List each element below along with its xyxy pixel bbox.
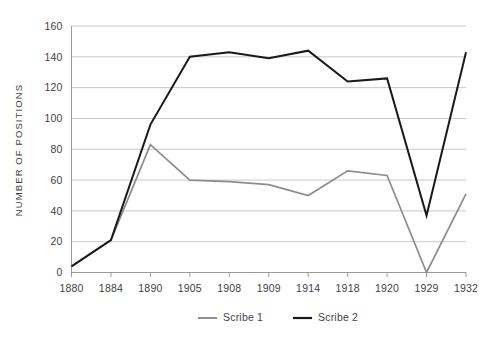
x-tick-label: 1884 <box>99 282 123 294</box>
x-tick-label: 1908 <box>217 282 241 294</box>
y-axis-title: NUMBER OF POSITIONS <box>13 84 24 216</box>
x-tick-label: 1905 <box>178 282 202 294</box>
y-tick-label: 40 <box>50 205 62 217</box>
x-tick-label: 1890 <box>138 282 162 294</box>
y-tick-label: 120 <box>44 81 62 93</box>
x-tick-label: 1914 <box>296 282 320 294</box>
series-line-2 <box>72 51 467 267</box>
x-tick-labels: 1880188418901905190819091914191819201929… <box>59 282 478 294</box>
series-lines <box>72 51 467 273</box>
x-tick-marks <box>72 273 467 278</box>
y-tick-label: 60 <box>50 174 62 186</box>
x-tick-label: 1918 <box>336 282 360 294</box>
line-chart: 020406080100120140160 188018841890190519… <box>0 0 483 346</box>
x-tick-label: 1932 <box>454 282 478 294</box>
y-tick-label: 140 <box>44 51 62 63</box>
series-line-1 <box>72 145 467 273</box>
legend-label-2: Scribe 2 <box>318 311 358 323</box>
y-tick-label: 80 <box>50 143 62 155</box>
chart-canvas: 020406080100120140160 188018841890190519… <box>0 0 483 346</box>
x-tick-label: 1920 <box>375 282 399 294</box>
y-tick-label: 100 <box>44 112 62 124</box>
x-tick-label: 1880 <box>59 282 83 294</box>
x-tick-label: 1929 <box>414 282 438 294</box>
y-tick-label: 20 <box>50 235 62 247</box>
y-tick-labels: 020406080100120140160 <box>44 20 62 279</box>
legend-label-1: Scribe 1 <box>223 311 263 323</box>
y-tick-label: 0 <box>56 266 62 278</box>
chart-legend: Scribe 1Scribe 2 <box>198 311 358 323</box>
y-tick-label: 160 <box>44 20 62 32</box>
x-tick-label: 1909 <box>257 282 281 294</box>
